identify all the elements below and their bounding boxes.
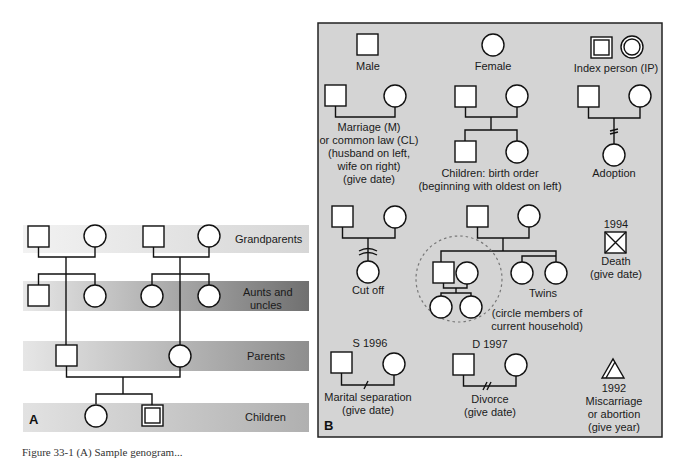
legend-household-mother — [456, 262, 478, 284]
legend-twin-2 — [545, 262, 567, 284]
legend-twins-label: Twins — [529, 287, 558, 299]
legend-marriage-line3: (husband on left, — [328, 147, 410, 159]
legend-female-icon — [482, 34, 504, 56]
female-symbol — [198, 285, 220, 307]
legend-children-mother — [506, 85, 528, 107]
female-symbol — [169, 345, 191, 367]
legend-children-line2: (beginning with oldest on left) — [418, 180, 561, 192]
legend-cutoff-male — [332, 206, 353, 227]
band-label-grandparents: Grandparents — [235, 233, 303, 245]
legend-marriage-line1: Marriage (M) — [338, 121, 401, 133]
legend-marriage-male — [325, 85, 346, 106]
legend-miscarriage-line3: (give year) — [588, 421, 640, 433]
female-symbol — [84, 285, 106, 307]
female-symbol — [84, 225, 106, 247]
legend-marriage-female — [384, 85, 406, 107]
panel-b-letter: B — [324, 418, 333, 433]
legend-children-son — [455, 141, 476, 162]
female-symbol — [198, 225, 220, 247]
legend-cutoff-child — [357, 261, 379, 283]
legend-marriage-line2: or common law (CL) — [319, 134, 418, 146]
legend-household-grandfather — [467, 206, 488, 227]
legend-separation-female — [383, 353, 405, 375]
legend-cutoff-label: Cut off — [352, 284, 385, 296]
legend-divorce-date: D 1997 — [472, 338, 507, 350]
legend-cutoff-female — [384, 206, 406, 228]
legend-household-grandmother — [518, 205, 540, 227]
legend-death-year: 1994 — [604, 218, 628, 230]
male-symbol — [28, 285, 49, 306]
legend-separation-line1: Marital separation — [324, 391, 411, 403]
female-symbol — [141, 285, 163, 307]
male-symbol — [28, 226, 49, 247]
panel-a: Grandparents Aunts and uncles Parents Ch… — [23, 225, 309, 432]
legend-female-label: Female — [475, 60, 512, 72]
legend-household-child-2 — [460, 296, 482, 318]
legend-miscarriage-line1: Miscarriage — [586, 395, 643, 407]
legend-death-line2: (give date) — [590, 268, 642, 280]
legend-miscarriage-year: 1992 — [602, 382, 626, 394]
legend-divorce-line1: Divorce — [471, 393, 508, 405]
legend-index-male-inner — [594, 40, 609, 55]
legend-adoption-label: Adoption — [592, 167, 635, 179]
legend-household-line1: (circle members of — [492, 307, 583, 319]
female-symbol — [85, 405, 107, 427]
figure-caption: Figure 33-1 (A) Sample genogram... — [22, 446, 182, 458]
index-person-inner-square — [145, 408, 160, 423]
legend-marriage-line4: wife on right) — [337, 160, 401, 172]
legend-children-daughter — [506, 141, 528, 163]
male-symbol — [56, 345, 77, 366]
legend-twin-1 — [511, 262, 533, 284]
legend-divorce-male — [453, 354, 474, 375]
legend-adoption-female — [629, 85, 651, 107]
legend-children-line1: Children: birth order — [441, 167, 539, 179]
band-label-children: Children — [245, 411, 286, 423]
legend-household-child-1 — [430, 296, 452, 318]
legend-male-icon — [357, 34, 378, 55]
male-symbol — [143, 226, 164, 247]
legend-household-father — [433, 262, 454, 283]
band-label-aunts-line2: uncles — [250, 299, 282, 311]
legend-separation-date: S 1996 — [353, 337, 388, 349]
legend-index-label: Index person (IP) — [574, 62, 658, 74]
legend-male-label: Male — [356, 60, 380, 72]
band-label-aunts-line1: Aunts and — [243, 286, 293, 298]
legend-marriage-line5: (give date) — [343, 173, 395, 185]
legend-adoption-child — [603, 144, 625, 166]
panel-b: B Male Female Index person (IP) Marriage… — [318, 23, 662, 437]
legend-separation-male — [331, 352, 352, 373]
legend-miscarriage-line2: or abortion — [588, 408, 641, 420]
legend-children-father — [455, 86, 476, 107]
legend-adoption-male — [578, 86, 599, 107]
band-label-parents: Parents — [247, 350, 285, 362]
legend-separation-line2: (give date) — [342, 404, 394, 416]
legend-death-line1: Death — [601, 255, 630, 267]
panel-a-letter: A — [29, 412, 39, 427]
legend-household-line2: current household) — [491, 320, 583, 332]
legend-index-female-inner — [624, 39, 640, 55]
legend-divorce-line2: (give date) — [464, 406, 516, 418]
legend-divorce-female — [505, 354, 527, 376]
